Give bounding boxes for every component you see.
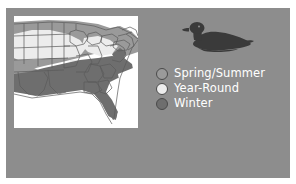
legend-item-spring-summer: Spring/Summer xyxy=(156,66,284,81)
legend-label-year-round: Year-Round xyxy=(174,82,239,95)
legend-swatch-year-round xyxy=(156,83,168,95)
legend-label-winter: Winter xyxy=(174,97,213,110)
duck-silhouette-icon xyxy=(176,20,254,60)
legend-item-winter: Winter xyxy=(156,96,284,111)
duck-body-shape xyxy=(182,22,254,52)
legend-label-spring-summer: Spring/Summer xyxy=(174,67,265,80)
legend: Spring/Summer Year-Round Winter xyxy=(156,66,284,111)
range-map-figure: Spring/Summer Year-Round Winter xyxy=(0,0,296,184)
legend-swatch-spring-summer xyxy=(156,68,168,80)
legend-item-year-round: Year-Round xyxy=(156,81,284,96)
duck-eye-icon xyxy=(198,26,200,28)
us-range-map xyxy=(14,16,138,128)
legend-swatch-winter xyxy=(156,98,168,110)
